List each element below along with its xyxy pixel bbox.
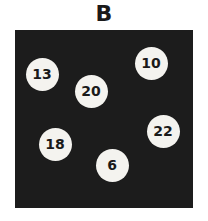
figure-label: B <box>0 2 208 26</box>
numbered-ball: 22 <box>147 115 180 148</box>
numbered-ball: 6 <box>96 149 129 182</box>
numbered-ball: 10 <box>135 47 168 80</box>
numbered-ball: 18 <box>39 128 72 161</box>
numbered-ball: 13 <box>26 58 59 91</box>
numbered-ball: 20 <box>75 75 108 108</box>
